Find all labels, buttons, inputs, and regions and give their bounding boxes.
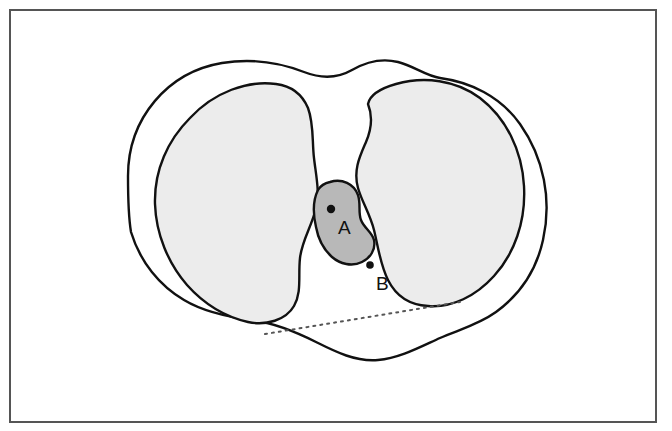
marker-point-b bbox=[366, 261, 374, 269]
marker-label-a: A bbox=[338, 217, 351, 238]
marker-label-b: B bbox=[376, 273, 389, 294]
figure-container: A B bbox=[0, 0, 672, 431]
marker-point-a bbox=[327, 205, 335, 213]
cross-section-diagram: A B bbox=[0, 0, 672, 431]
